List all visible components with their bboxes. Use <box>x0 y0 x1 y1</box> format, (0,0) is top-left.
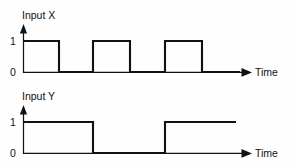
y-tick-low-input-y: 0 <box>10 147 16 159</box>
y-tick-low-input-x: 0 <box>10 66 16 78</box>
x-axis-arrow-icon-input-x <box>242 68 253 77</box>
y-axis-arrow-icon-input-x <box>20 24 27 34</box>
timing-diagram-canvas: Input X 1 0 Time Input Y <box>0 0 296 167</box>
x-axis-arrow-icon-input-y <box>242 149 253 158</box>
y-tick-high-input-y: 1 <box>10 116 16 128</box>
signal-label-input-y: Input Y <box>22 90 55 102</box>
panel-input-x: Input X 1 0 Time <box>10 9 278 78</box>
x-axis-label-input-y: Time <box>255 147 278 159</box>
waveform-input-y <box>24 122 236 153</box>
y-tick-high-input-x: 1 <box>10 35 16 47</box>
signal-label-input-x: Input X <box>22 9 55 21</box>
x-axis-label-input-x: Time <box>255 66 278 78</box>
timing-diagram-svg: Input X 1 0 Time Input Y <box>0 0 296 167</box>
y-axis-arrow-icon-input-y <box>20 105 27 115</box>
panel-input-y: Input Y 1 0 Time <box>10 90 278 159</box>
waveform-input-x <box>24 41 240 72</box>
